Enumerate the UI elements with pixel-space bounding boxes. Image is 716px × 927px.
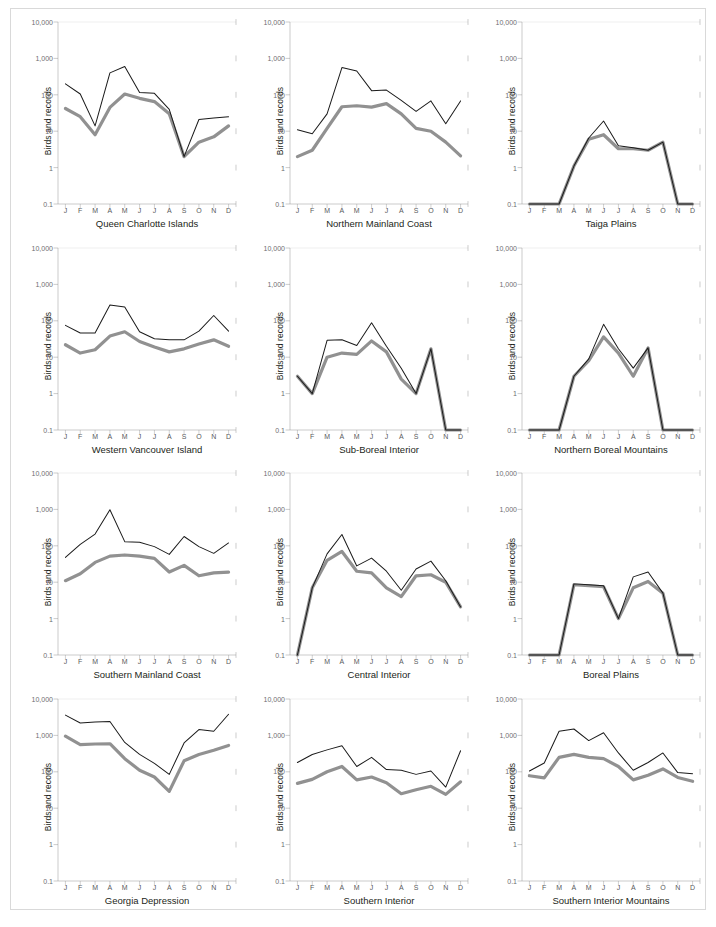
x-tick-label: J [138, 433, 142, 440]
x-tick-label: O [428, 433, 433, 440]
series-line-records [529, 572, 692, 655]
x-tick-label: J [617, 433, 621, 440]
x-tick-label: M [324, 658, 330, 665]
series-line-birds [529, 135, 692, 204]
x-tick-label: S [414, 433, 419, 440]
x-tick-label: S [182, 207, 187, 214]
x-tick-label: J [528, 658, 532, 665]
x-tick-label: F [542, 207, 546, 214]
x-tick-label: A [631, 658, 636, 665]
x-tick-label: J [370, 433, 374, 440]
y-tick-label: 10 [45, 353, 53, 360]
x-tick-label: N [211, 433, 216, 440]
x-tick-label: A [167, 658, 172, 665]
plot-svg [290, 248, 468, 430]
x-tick-label: J [528, 884, 532, 891]
panel-title: Central Interior [290, 669, 468, 680]
plot-svg [522, 699, 700, 881]
series-line-records [297, 534, 460, 655]
x-tick-label: J [153, 658, 157, 665]
panel-inner: Birds and records10,0001,0001001010.1JFM… [242, 8, 474, 234]
plot-svg [522, 248, 700, 430]
y-tick-label: 1,000 [267, 280, 285, 287]
x-tick-label: A [399, 658, 404, 665]
y-tick-label: 1,000 [35, 731, 53, 738]
panel-inner: Birds and records10,0001,0001001010.1JFM… [474, 234, 706, 460]
series-line-records [297, 322, 460, 429]
y-tick-label: 10,000 [264, 470, 285, 477]
y-tick-label: 10,000 [264, 244, 285, 251]
panel-title: Southern Mainland Coast [58, 669, 236, 680]
y-tick-label: 0.1 [275, 652, 285, 659]
x-tick-label: M [92, 433, 98, 440]
y-tick-label: 100 [505, 542, 517, 549]
chart-panel: Birds and records10,0001,0001001010.1JFM… [242, 459, 474, 685]
x-tick-label: F [542, 433, 546, 440]
x-tick-label: A [340, 884, 345, 891]
panel-title: Southern Interior [290, 895, 468, 906]
x-tick-label: J [64, 884, 68, 891]
x-tick-label: S [182, 884, 187, 891]
x-tick-label: M [122, 433, 128, 440]
y-tick-label: 1 [281, 841, 285, 848]
x-tick-label: F [542, 884, 546, 891]
x-tick-label: O [196, 433, 201, 440]
x-tick-label: A [340, 207, 345, 214]
y-tick-label: 100 [273, 542, 285, 549]
panel-title: Taiga Plains [522, 218, 700, 229]
x-tick-label: J [370, 658, 374, 665]
x-tick-label: O [660, 658, 665, 665]
x-tick-label: S [182, 433, 187, 440]
panel-title: Queen Charlotte Islands [58, 218, 236, 229]
chart-panel: Birds and records10,0001,0001001010.1JFM… [242, 234, 474, 460]
x-tick-label: D [226, 207, 231, 214]
x-tick-label: M [324, 207, 330, 214]
x-tick-label: A [631, 884, 636, 891]
figure-page: Birds and records10,0001,0001001010.1JFM… [0, 0, 716, 927]
x-tick-label: J [296, 433, 300, 440]
x-tick-label: A [572, 658, 577, 665]
plot-svg [58, 248, 236, 430]
x-tick-label: J [602, 207, 606, 214]
y-tick-label: 10 [277, 128, 285, 135]
x-tick-label: M [586, 433, 592, 440]
x-tick-label: A [572, 207, 577, 214]
y-tick-label: 10 [277, 353, 285, 360]
x-tick-label: M [324, 433, 330, 440]
x-tick-label: A [167, 884, 172, 891]
y-tick-label: 10,000 [496, 19, 517, 26]
x-tick-label: S [646, 658, 651, 665]
x-tick-label: D [226, 884, 231, 891]
x-tick-label: M [92, 884, 98, 891]
x-tick-label: D [690, 207, 695, 214]
x-tick-label: J [385, 207, 389, 214]
series-line-records [529, 324, 692, 430]
y-tick-label: 100 [273, 317, 285, 324]
x-tick-label: O [428, 658, 433, 665]
y-tick-label: 10,000 [32, 244, 53, 251]
panel-inner: Birds and records10,0001,0001001010.1JFM… [242, 459, 474, 685]
panel-title: Georgia Depression [58, 895, 236, 906]
chart-panel: Birds and records10,0001,0001001010.1JFM… [474, 8, 706, 234]
y-tick-label: 1,000 [499, 506, 517, 513]
x-tick-label: S [646, 433, 651, 440]
series-line-birds [529, 754, 692, 781]
x-tick-label: S [414, 884, 419, 891]
x-tick-label: J [370, 884, 374, 891]
x-tick-label: D [458, 658, 463, 665]
x-tick-label: J [153, 433, 157, 440]
y-tick-label: 10 [277, 579, 285, 586]
x-tick-label: A [572, 884, 577, 891]
x-tick-label: N [211, 884, 216, 891]
y-tick-label: 1,000 [35, 55, 53, 62]
series-line-birds [65, 94, 228, 157]
x-tick-label: M [354, 658, 360, 665]
plot-area: 10,0001,0001001010.1JFMAMJJASOND [290, 699, 468, 881]
x-tick-label: O [196, 884, 201, 891]
series-line-birds [529, 336, 692, 429]
x-tick-label: M [354, 207, 360, 214]
panel-title: Western Vancouver Island [58, 444, 236, 455]
y-tick-label: 10 [509, 804, 517, 811]
x-tick-label: F [310, 433, 314, 440]
plot-svg [290, 699, 468, 881]
